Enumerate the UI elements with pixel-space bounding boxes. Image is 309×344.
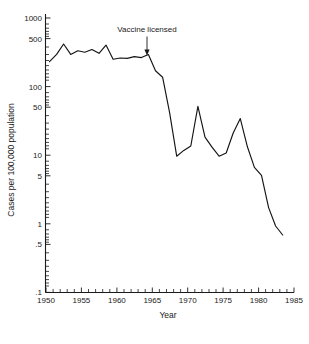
y-tick-label: 50: [33, 103, 42, 112]
measles-incidence-line-chart: 1000 500 100 50 10 5 1 .5 .1: [0, 0, 309, 344]
figure-container: 1000 500 100 50 10 5 1 .5 .1: [0, 0, 309, 344]
x-axis-ticks: 1950 1955 1960 1965 1970 1975 1980 1985: [37, 288, 303, 306]
x-axis-title: Year: [159, 310, 176, 320]
y-tick-label: 10: [33, 151, 42, 160]
annotation-label: Vaccine licensed: [117, 25, 176, 34]
x-tick-label: 1965: [143, 296, 161, 305]
y-tick-label: 500: [29, 35, 43, 44]
y-tick-label: .5: [35, 240, 42, 249]
y-tick-label: 1: [38, 220, 43, 229]
y-tick-label: 5: [38, 172, 43, 181]
y-axis-title: Cases per 100,000 population: [6, 103, 16, 217]
annotation-vaccine-licensed: Vaccine licensed: [117, 25, 176, 56]
x-tick-label: 1955: [73, 296, 91, 305]
x-tick-label: 1980: [250, 296, 268, 305]
y-tick-label: 1000: [24, 14, 42, 23]
x-tick-label: 1985: [285, 296, 303, 305]
y-tick-label: 100: [29, 83, 43, 92]
y-axis-ticks: 1000 500 100 50 10 5 1 .5 .1: [24, 14, 50, 297]
x-tick-label: 1950: [37, 296, 55, 305]
series-measles-incidence: [50, 44, 283, 235]
x-tick-label: 1970: [179, 296, 197, 305]
x-tick-label: 1975: [214, 296, 232, 305]
x-tick-label: 1960: [108, 296, 126, 305]
